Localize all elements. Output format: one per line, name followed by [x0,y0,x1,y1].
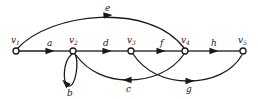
signal-flow-graph: a d f h e b c g [0,0,258,99]
edge-label-g: g [186,84,192,94]
svg-text:v5: v5 [238,35,247,46]
edge-label-b: b [67,88,73,98]
edge-label-e: e [105,3,110,13]
edge-e: e [17,3,184,49]
edge-c: c [76,54,184,94]
edge-label-f: f [159,38,165,48]
svg-text:v3: v3 [127,35,136,46]
edge-label-c: c [126,84,131,94]
svg-text:v2: v2 [69,35,78,46]
edge-label-d: d [103,38,109,48]
edge-b: b [64,54,76,98]
edge-d: d [76,38,128,51]
node-v1: v1 [11,35,20,54]
node-v5: v5 [238,35,247,54]
edge-f: f [134,38,182,51]
svg-text:v1: v1 [11,35,20,46]
edge-a: a [16,38,70,51]
edge-label-a: a [47,38,52,48]
edge-label-h: h [211,38,217,48]
edge-g: g [133,54,242,94]
edge-h: h [188,38,240,51]
svg-text:v4: v4 [181,35,190,46]
